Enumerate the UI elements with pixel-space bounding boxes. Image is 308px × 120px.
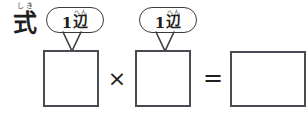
operand-1-box[interactable] xyxy=(43,50,99,107)
callout-right-kanji: 辺 xyxy=(166,15,181,30)
callout-right-number: 1 xyxy=(155,16,165,31)
formula-row-label-furigana: しき xyxy=(17,3,35,11)
result-box[interactable] xyxy=(230,51,306,107)
operand-2-box[interactable] xyxy=(135,50,191,107)
callout-right: 1 へん 辺 xyxy=(139,7,201,55)
callout-right-bubble: 1 へん 辺 xyxy=(139,7,197,33)
callout-left-kanji: 辺 xyxy=(73,15,88,30)
callout-left-bubble: 1 へん 辺 xyxy=(46,7,104,33)
formula-worksheet: しき 式 1 へん 辺 1 へん 辺 xyxy=(0,0,308,120)
formula-row-label: しき 式 xyxy=(8,3,42,43)
callout-right-kanji-group: へん 辺 xyxy=(166,9,181,30)
callout-left-kanji-group: へん 辺 xyxy=(73,9,88,30)
callout-left: 1 へん 辺 xyxy=(46,7,108,55)
callout-left-number: 1 xyxy=(62,16,72,31)
formula-row-label-text: 式 xyxy=(13,11,37,36)
callout-left-content: 1 へん 辺 xyxy=(62,9,88,30)
equals-operator: = xyxy=(199,66,227,90)
multiplication-operator: × xyxy=(105,68,129,90)
callout-right-content: 1 へん 辺 xyxy=(155,9,181,30)
